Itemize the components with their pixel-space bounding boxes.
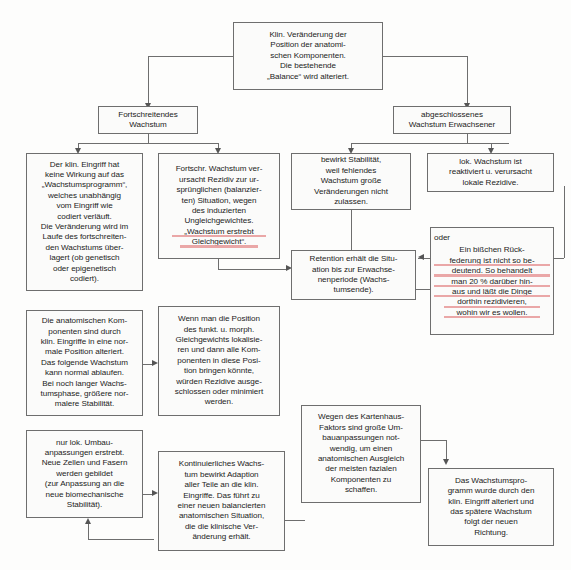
node-position-gleichgewicht-lokalisieren[interactable]: Wenn man die Position des funkt. u. morp… <box>158 306 280 416</box>
node-line: tumsende). <box>295 285 412 295</box>
connector-l2-down <box>218 259 219 269</box>
node-line: Retention erhält die Situ- <box>295 254 412 264</box>
connector-l6-to-bottom-bus <box>285 520 305 521</box>
node-line: ponenten in diese Posi- <box>162 356 276 366</box>
node-line: Eingriffe. Das führt zu <box>162 491 281 501</box>
connector-left-branch-stem <box>148 134 149 144</box>
node-line: anatomischen Ausgleich <box>305 454 417 464</box>
node-line: schen Komponenten. <box>237 51 379 61</box>
node-line: reaktiviert u. verursacht <box>431 167 550 177</box>
node-line: codiert verläuft. <box>30 212 139 222</box>
node-oder-rueckfederung[interactable]: oder Ein bißchen Rück- federung ist nich… <box>430 227 554 335</box>
node-line-highlighted: Gleichgewicht“. <box>162 237 276 247</box>
connector-r4-to-r3 <box>416 289 430 290</box>
node-line: Richtung. <box>432 528 550 538</box>
node-retention-erhaelt-situation[interactable]: Retention erhält die Situ- ation bis zur… <box>291 250 416 300</box>
node-line: Gleichgewichts lokalisie- <box>162 335 276 345</box>
node-nur-lok-umbauanpassungen[interactable]: nur lok. Umbau- anpassungen erstrebt. Ne… <box>26 430 143 518</box>
node-line: ponenten sind durch <box>30 327 139 337</box>
connector-root-right-horizontal <box>383 56 468 57</box>
node-line: vom Eingriff wie <box>30 201 139 211</box>
node-line: nur lok. Umbau- <box>30 438 139 448</box>
node-anatomische-komponenten-alteriert[interactable]: Die anatomischen Kom- ponenten sind durc… <box>26 310 143 416</box>
node-line: das spätere Wachstum <box>432 507 550 517</box>
node-wachstumsprogramm-alteriert[interactable]: Das Wachstumspro- gramm wurde durch den … <box>428 468 554 546</box>
node-line: den Wachstums über- <box>30 243 139 253</box>
node-kartenhaus-faktor[interactable]: Wegen des Kartenhaus- Faktors sind große… <box>301 405 421 503</box>
node-line: die die klinische Ver- <box>162 522 281 532</box>
node-line: ation bis zur Erwachse- <box>295 265 412 275</box>
node-line: neue biomechanische <box>30 490 139 500</box>
connector-l6-to-l5-horizontal <box>88 539 154 540</box>
node-line: der meisten fazialen <box>305 464 417 474</box>
node-line: Fortschreitendes <box>102 110 194 120</box>
node-line: würden Rezidive ausge- <box>162 377 276 387</box>
node-line: oder epigenetisch <box>30 264 139 274</box>
node-line: weil fehlendes <box>295 166 407 176</box>
arrow-into-r6 <box>443 459 449 465</box>
node-line: nenperiode (Wachs- <box>295 275 412 285</box>
node-line: Ein bißchen Rück- <box>434 245 550 255</box>
node-line: Wachstum <box>102 120 194 130</box>
node-line: Faktors sind große Um- <box>305 423 417 433</box>
connector-right-branch-stem <box>467 134 468 144</box>
connector-l2-to-r4-horizontal <box>218 269 286 270</box>
node-line: „Wachstumsprogramm“, <box>30 180 139 190</box>
node-line: schaffen. <box>305 485 417 495</box>
node-abgeschlossenes-wachstum[interactable]: abgeschlossenes Wachstum Erwachsener <box>393 106 511 134</box>
node-line-highlighted: federung ist nicht so be- <box>434 256 550 266</box>
node-line: ten) Situation, wegen <box>162 196 276 206</box>
node-line: Komponenten zu <box>305 475 417 485</box>
node-lok-wachstum-reaktiviert[interactable]: lok. Wachstum ist reaktiviert u. verursa… <box>427 153 554 192</box>
node-kontinuierliches-wachstum-adaption[interactable]: Kontinuierliches Wachs- tum bewirkt Adap… <box>158 451 285 551</box>
node-line: Wachstum Erwachsener <box>397 120 507 130</box>
connector-r2-to-r3-vertical <box>564 186 565 258</box>
node-fortschreitendes-wachstum[interactable]: Fortschreitendes Wachstum <box>98 106 198 134</box>
node-line: Veränderungen nicht <box>295 187 407 197</box>
node-line: Die anatomischen Kom- <box>30 316 139 326</box>
node-line: wendig, um einen <box>305 444 417 454</box>
connector-r1-to-r4 <box>351 210 352 250</box>
connector-root-left-horizontal <box>148 56 233 57</box>
connector-bottom-joint <box>285 520 286 521</box>
connector-root-to-right-branch-vertical <box>467 56 468 106</box>
node-line: änderung erhält. <box>162 532 281 542</box>
node-line: Stabilität). <box>30 500 139 510</box>
node-line: einer neuen balancierten <box>162 501 281 511</box>
node-line-highlighted: wohin wir es wollen. <box>434 308 550 318</box>
node-line: Die bestehende <box>237 61 379 71</box>
node-line: codiert). <box>30 274 139 284</box>
node-line: abgeschlossenes <box>397 110 507 120</box>
connector-right-branch-bus <box>351 143 509 144</box>
node-line: Wachstum große <box>295 176 407 186</box>
node-line: ren und dann alle Kom- <box>162 345 276 355</box>
node-line: lagert (ob genetisch <box>30 253 139 263</box>
node-fortschr-wachstum-rezidiv[interactable]: Fortschr. Wachstum ver- ursacht Rezidiv … <box>158 153 280 259</box>
node-line: Der klin. Eingriff hat <box>30 160 139 170</box>
node-klin-eingriff-keine-wirkung[interactable]: Der klin. Eingriff hat keine Wirkung auf… <box>26 153 143 291</box>
node-line: ursacht Rezidiv zur ur- <box>162 175 276 185</box>
node-line: tion bringen könnte, <box>162 366 276 376</box>
node-line: Laufe des fortschreiten- <box>30 232 139 242</box>
node-line: „Balance“ wird alteriert. <box>237 72 379 82</box>
node-line: klin. Eingriff alteriert und <box>432 497 550 507</box>
node-line-highlighted: man 20 % darüber hin- <box>434 277 550 287</box>
connector-root-to-left-branch-vertical <box>148 56 149 106</box>
node-line: kann normal ablaufen. <box>30 368 139 378</box>
node-bewirkt-stabilitaet[interactable]: bewirkt Stabilität, weil fehlendes Wachs… <box>291 153 411 210</box>
node-line: Die Veränderung wird im <box>30 222 139 232</box>
node-line: bauanpassungen not- <box>305 433 417 443</box>
node-label-oder: oder <box>434 233 550 243</box>
node-line: tumsphase, größere nor- <box>30 389 139 399</box>
node-line-highlighted: „Wachstum erstrebt <box>162 227 276 237</box>
node-line: sprünglichen (balanzier- <box>162 185 276 195</box>
node-line: schlossen oder minimiert <box>162 387 276 397</box>
node-line: werden. <box>162 397 276 407</box>
node-line: Das Wachstumspro- <box>432 476 550 486</box>
node-line: Klin. Veränderung der <box>237 30 379 40</box>
node-klin-veraenderung[interactable]: Klin. Veränderung der Position der anato… <box>233 22 383 90</box>
arrow-into-l5 <box>85 518 91 524</box>
node-line: klin. Eingriffe in eine nor- <box>30 337 139 347</box>
node-line: Fortschr. Wachstum ver- <box>162 164 276 174</box>
node-line: Bei noch langer Wachs- <box>30 379 139 389</box>
